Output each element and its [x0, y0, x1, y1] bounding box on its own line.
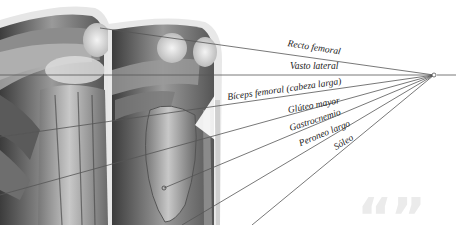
- leader-line-recto-femoral: [100, 28, 434, 75]
- quote-watermark-icon: “”: [357, 191, 424, 225]
- leader-line-biceps-femoral: [0, 75, 434, 137]
- anatomy-diagram: Recto femoral Vasto lateral Bíceps femor…: [0, 0, 456, 225]
- hub-point-icon: [432, 73, 436, 77]
- leader-line-gluteo-mayor: [0, 75, 434, 195]
- label-vasto-lateral: Vasto lateral: [290, 61, 338, 71]
